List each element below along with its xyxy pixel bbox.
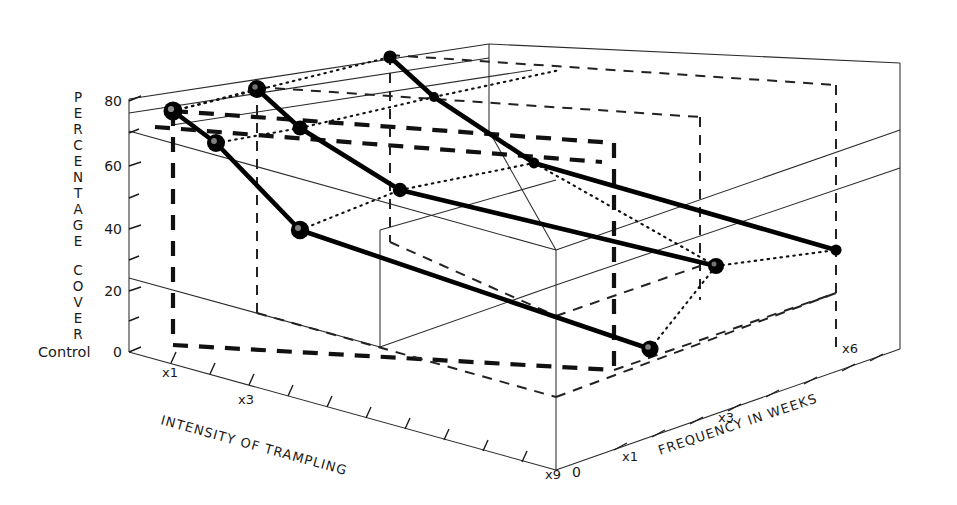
- intensity-tick: [210, 363, 215, 374]
- z-tick-minor: [129, 194, 139, 198]
- chart-canvas: 80 60 40 20 0 Control P E R C E N T A G …: [0, 0, 957, 505]
- intensity-tick-label-x1: x1: [162, 365, 178, 380]
- data-point-highlight: [252, 84, 257, 89]
- z-axis-title-letter: R: [73, 121, 82, 137]
- z-tick-minor: [129, 317, 139, 321]
- frequency-tick: [842, 364, 855, 371]
- intensity-tick-label-x3: x3: [238, 392, 254, 407]
- data-point-highlight: [712, 262, 717, 267]
- z-tick-major: [129, 287, 141, 291]
- data-point-marker[interactable]: [641, 340, 658, 357]
- frequency-tick: [870, 354, 883, 361]
- data-point-marker[interactable]: [429, 92, 439, 102]
- data-point-marker[interactable]: [529, 158, 540, 169]
- intensity-tick: [405, 418, 410, 429]
- data-series-group: [173, 57, 836, 349]
- z-axis-title-letter: E: [74, 153, 83, 169]
- dotted-connector-f1: [534, 163, 716, 266]
- intensity-tick: [327, 396, 332, 407]
- z-axis-title-letter: A: [73, 201, 83, 217]
- dashed-floor-inner-2: [556, 293, 836, 397]
- z-tick-major: [129, 225, 141, 229]
- dotted-connector-c2: [400, 163, 534, 190]
- box-inner-lower-edge: [129, 278, 380, 347]
- z-tick-label-20: 20: [104, 283, 122, 299]
- box-inner-step-edge-a: [489, 131, 556, 250]
- z-axis-title-letter: P: [74, 89, 82, 105]
- data-point-marker[interactable]: [830, 244, 841, 255]
- z-tick-major: [129, 162, 141, 166]
- dotted-connector-d1: [434, 70, 560, 97]
- z-axis-origin-control-label: Control: [38, 344, 90, 360]
- intensity-tick: [444, 429, 449, 440]
- data-point-highlight: [168, 106, 174, 112]
- data-point-marker[interactable]: [292, 120, 307, 135]
- dashed-floor-band-right-3: [390, 242, 556, 316]
- data-point-marker[interactable]: [248, 80, 266, 98]
- box-top-left-back-edge: [129, 44, 489, 99]
- intensity-axis-line: [129, 352, 556, 470]
- box-floor-far-edge: [129, 131, 556, 250]
- frequency-tick-label-x1: x1: [622, 449, 638, 464]
- intensity-tick: [483, 440, 488, 451]
- frequency-tick-label-x6: x6: [842, 341, 858, 356]
- dotted-connector-e2: [716, 250, 836, 266]
- z-tick-minor: [129, 256, 139, 260]
- intensity-tick: [288, 385, 293, 396]
- box-inner-panel-edge-1: [129, 58, 489, 113]
- z-axis-title-letter: C: [73, 137, 82, 153]
- z-axis-title-letter: V: [73, 294, 83, 310]
- z-tick-label-40: 40: [104, 221, 122, 237]
- z-axis-title-letter: O: [73, 278, 84, 294]
- z-tick-label-80: 80: [104, 93, 122, 109]
- intensity-tick: [249, 374, 254, 385]
- intensity-tick-label-x9: x9: [545, 467, 561, 482]
- data-point-highlight: [211, 138, 217, 144]
- frequency-axis-title: FREQUENCY IN WEEKS: [656, 391, 819, 458]
- z-axis-title-letter: T: [73, 185, 83, 201]
- intensity-tick: [366, 407, 371, 418]
- dashed-floor-band-right-2: [556, 266, 700, 316]
- z-axis-title-letter: E: [74, 105, 83, 121]
- data-point-highlight: [645, 344, 651, 350]
- z-axis-title-letter: E: [74, 233, 83, 249]
- intensity-tick: [522, 451, 527, 462]
- z-tick-label-0: 0: [113, 344, 122, 360]
- frequency-tick: [690, 417, 703, 424]
- z-axis-ticks: [129, 96, 141, 352]
- dotted-connector-c1: [300, 190, 400, 230]
- intensity-axis-ticks: [171, 352, 527, 462]
- z-axis-title-letter: R: [73, 326, 82, 342]
- z-axis-title-letter: C: [73, 262, 82, 278]
- data-point-highlight: [295, 225, 301, 231]
- box-top-back-edge: [489, 44, 900, 63]
- z-tick-label-60: 60: [104, 158, 122, 174]
- series-line-frequency-x1: [173, 111, 650, 349]
- dashed-floor-band-right: [614, 293, 836, 370]
- intensity-axis-title: INTENSITY OF TRAMPLING: [159, 412, 349, 478]
- data-point-marker[interactable]: [383, 50, 396, 63]
- frequency-tick: [804, 377, 817, 384]
- box-inner-lower-edge-2: [380, 285, 556, 347]
- intensity-tick: [171, 352, 176, 363]
- frequency-axis-origin-label: 0: [572, 464, 581, 480]
- dotted-connector-e1: [650, 266, 716, 349]
- z-axis-title: P E R C E N T A G E C O V E R: [73, 89, 84, 342]
- z-tick-major: [129, 347, 141, 352]
- dashed-top-band-1: [173, 111, 614, 143]
- data-point-marker[interactable]: [708, 258, 724, 274]
- z-axis-title-letter: N: [73, 169, 83, 185]
- data-point-marker[interactable]: [393, 183, 407, 197]
- z-axis-title-letter: G: [73, 217, 83, 233]
- dashed-top-band-upper: [390, 55, 836, 85]
- box-floor-far-edge-2: [556, 130, 900, 250]
- chart-figure: 80 60 40 20 0 Control P E R C E N T A G …: [0, 0, 957, 505]
- z-axis-title-letter: E: [74, 310, 83, 326]
- frequency-tick: [766, 390, 779, 397]
- dashed-floor-band: [173, 345, 614, 370]
- frequency-tick: [652, 430, 665, 437]
